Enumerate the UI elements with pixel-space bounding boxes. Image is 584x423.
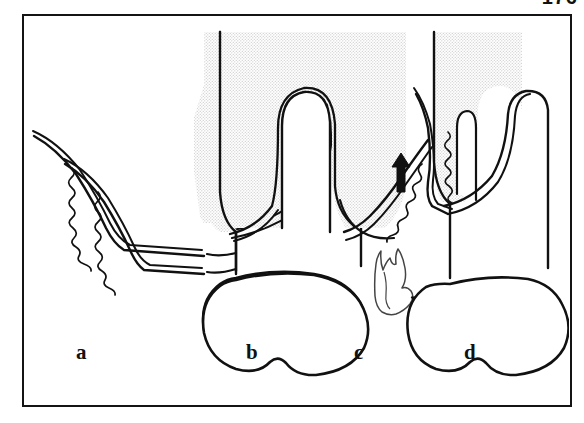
junctional-epithelium-a [95, 192, 115, 295]
curette-shank-outer-b [34, 136, 204, 256]
root-crown-bulge-bc [282, 92, 330, 232]
panel-bc: b c [33, 32, 443, 375]
tooth-crown-bc [203, 273, 368, 375]
curette-shank-inner-b [33, 131, 202, 250]
panel-label-c: c [354, 340, 363, 364]
figure-page: 176 [0, 0, 584, 423]
figure-frame: a [22, 14, 572, 407]
root-bulge-d [457, 111, 476, 200]
page-folio-number: 176 [542, 0, 578, 7]
tooth-crown-d [407, 277, 568, 375]
calculus-fragment [375, 249, 413, 315]
panel-label-b: b [246, 340, 258, 364]
panel-label-d: d [464, 340, 476, 364]
dental-illustration: a [24, 16, 569, 404]
panel-label-a: a [76, 340, 87, 364]
pocket-base-a [207, 269, 236, 273]
pocket-base-b [207, 253, 236, 255]
